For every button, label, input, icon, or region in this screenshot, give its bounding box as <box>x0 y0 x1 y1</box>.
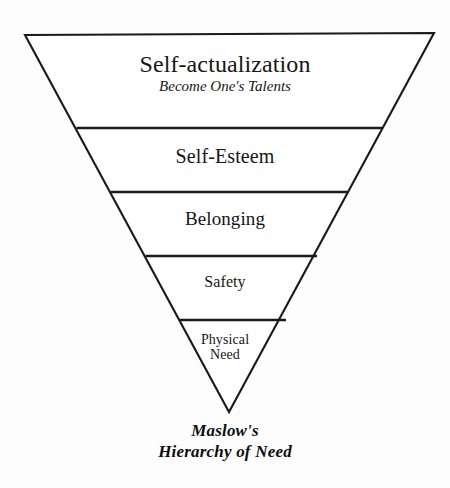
tier-self-esteem[interactable]: Self-Esteem <box>0 146 450 167</box>
tier-safety-title: Safety <box>0 274 450 291</box>
tier-self-actualization-subtitle: Become One's Talents <box>0 78 450 95</box>
tier-safety[interactable]: Safety <box>0 274 450 291</box>
tier-self-esteem-title: Self-Esteem <box>0 146 450 167</box>
tier-physical-need-title: Physical Need <box>0 332 450 362</box>
diagram-caption: Maslow's Hierarchy of Need <box>0 421 450 462</box>
diagram-caption-text: Maslow's Hierarchy of Need <box>0 421 450 462</box>
tier-self-actualization[interactable]: Self-actualization Become One's Talents <box>0 52 450 95</box>
tier-belonging-title: Belonging <box>0 209 450 229</box>
tier-self-actualization-title: Self-actualization <box>0 52 450 77</box>
tier-belonging[interactable]: Belonging <box>0 209 450 229</box>
tier-physical-need[interactable]: Physical Need <box>0 332 450 362</box>
maslow-diagram: Self-actualization Become One's Talents … <box>0 0 450 488</box>
